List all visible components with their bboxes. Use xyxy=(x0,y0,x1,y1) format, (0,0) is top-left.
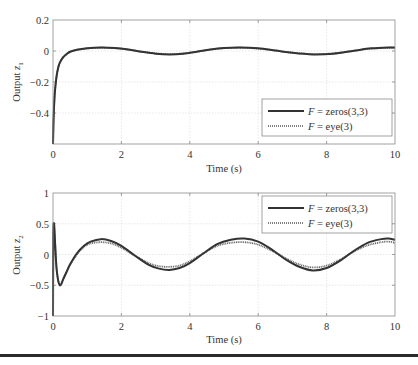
legend-label-zeros: F = zeros(3,3) xyxy=(307,106,368,118)
y-tick-label: 0.5 xyxy=(36,219,49,230)
y-tick-label: 1 xyxy=(44,188,49,199)
y-axis-title: Output z2 xyxy=(11,235,25,275)
x-tick-label: 8 xyxy=(324,149,329,160)
y-tick-label: −1 xyxy=(38,311,49,322)
x-tick-labels: 0246810 xyxy=(50,321,400,332)
x-tick-label: 0 xyxy=(50,321,55,332)
x-tick-label: 10 xyxy=(390,321,401,332)
x-tick-label: 6 xyxy=(256,321,261,332)
x-tick-label: 8 xyxy=(324,321,329,332)
y-tick-label: −0.4 xyxy=(30,108,50,119)
data-lines xyxy=(53,223,395,316)
x-tick-label: 0 xyxy=(50,149,55,160)
x-tick-labels: 0246810 xyxy=(50,149,400,160)
x-tick-label: 4 xyxy=(187,321,193,332)
x-axis-title: Time (s) xyxy=(206,163,242,175)
legend-label-eye: F = eye(3) xyxy=(307,218,353,230)
x-tick-label: 10 xyxy=(390,149,401,160)
bottom-rule-divider xyxy=(0,354,418,357)
y-tick-labels: 10.50−0.5−1 xyxy=(30,188,49,322)
legend: F = zeros(3,3) F = eye(3) xyxy=(262,99,392,136)
x-tick-label: 6 xyxy=(256,149,261,160)
legend: F = zeros(3,3) F = eye(3) xyxy=(262,196,392,233)
y-tick-label: −0.5 xyxy=(30,280,49,291)
y-tick-label: 0 xyxy=(44,46,49,57)
legend-label-zeros: F = zeros(3,3) xyxy=(307,203,368,215)
subplot-z1: 0246810 0.20−0.2−0.4 Time (s) Output z1 … xyxy=(11,15,400,175)
y-axis-title: Output z1 xyxy=(11,62,25,102)
series-line-zeros xyxy=(53,223,395,316)
y-tick-label: 0 xyxy=(44,250,49,261)
y-tick-labels: 0.20−0.2−0.4 xyxy=(30,15,50,119)
subplot-z2: 0246810 10.50−0.5−1 Time (s) Output z2 F… xyxy=(11,188,400,346)
y-tick-label: 0.2 xyxy=(36,15,49,26)
x-tick-label: 4 xyxy=(187,149,193,160)
legend-label-eye: F = eye(3) xyxy=(307,121,353,133)
series-line-eye xyxy=(53,223,395,316)
figure: 0246810 0.20−0.2−0.4 Time (s) Output z1 … xyxy=(0,0,418,365)
x-axis-title: Time (s) xyxy=(206,334,242,346)
x-tick-label: 2 xyxy=(119,149,124,160)
x-tick-label: 2 xyxy=(119,321,124,332)
y-tick-label: −0.2 xyxy=(30,77,49,88)
